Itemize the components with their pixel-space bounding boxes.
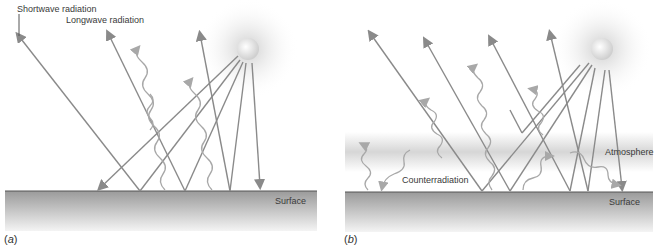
surface-label-b: Surface: [609, 197, 640, 207]
panel-b-tag: (b): [344, 233, 357, 245]
surface: [5, 191, 317, 231]
panel-b: Atmosphere Counterradiation Surface (b): [340, 0, 658, 249]
atmosphere-label: Atmosphere: [605, 147, 654, 157]
panel-b-diagram: [340, 0, 658, 249]
panel-a-tag: (a): [4, 233, 17, 245]
sun-icon: [591, 38, 613, 60]
counterradiation-label: Counterradiation: [402, 175, 469, 185]
surface-label-a: Surface: [275, 196, 306, 206]
panel-a: Shortwave radiation Longwave radiation S…: [0, 0, 330, 249]
longwave-radiation-label: Longwave radiation: [66, 15, 144, 25]
surface: [345, 192, 653, 232]
panel-a-diagram: [0, 0, 330, 249]
shortwave-radiation-label: Shortwave radiation: [17, 4, 97, 14]
sun-icon: [237, 38, 259, 60]
